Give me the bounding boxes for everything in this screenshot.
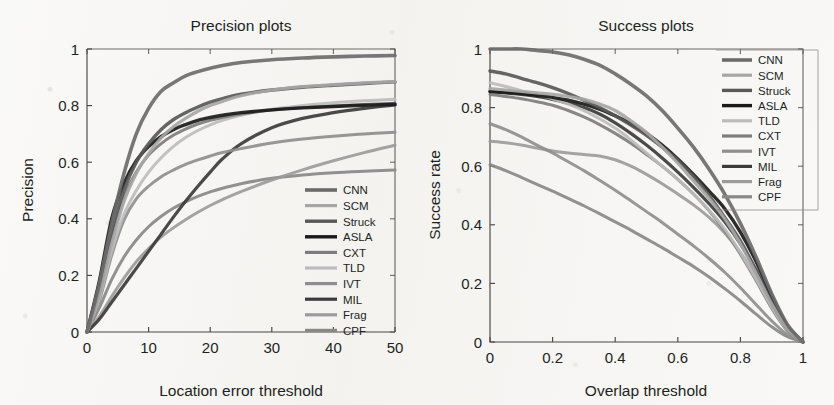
legend-label-ivt: IVT [758,146,776,158]
x-tick-label-success-3: 0.6 [667,349,688,366]
legend-label-struck: Struck [758,85,791,97]
x-tick-label-precision-1: 10 [140,339,157,356]
legend-item-precision-cpf[interactable]: CPF [305,325,366,337]
legend-label-cxt: CXT [758,130,781,142]
legend-item-success-struck[interactable]: Struck [722,85,791,97]
legend-label-cpf: CPF [758,191,781,203]
y-tick-label-precision-0: 0 [71,324,79,341]
y-tick-label-precision-4: 0.8 [58,97,79,114]
legend-item-success-cxt[interactable]: CXT [722,130,781,142]
legend-item-success-cnn[interactable]: CNN [722,54,783,66]
legend-item-precision-tld[interactable]: TLD [305,262,365,274]
legend-label-frag: Frag [758,176,782,188]
y-tick-label-success-5: 1 [474,41,482,58]
legend-label-scm: SCM [343,200,369,212]
legend-label-mil: MIL [343,294,363,306]
y-tick-label-precision-5: 1 [71,41,79,58]
chart-title-precision: Precision plots [191,17,292,34]
curves-success [490,49,803,342]
x-tick-label-success-4: 0.8 [730,349,751,366]
y-axis-label-precision: Precision [19,158,36,222]
legend-label-ivt: IVT [343,278,361,290]
y-tick-label-success-4: 0.8 [461,99,482,116]
legend-label-struck: Struck [343,216,376,228]
y-tick-label-success-2: 0.4 [461,216,482,233]
y-axis-label-success: Success rate [426,150,443,240]
legend-item-precision-ivt[interactable]: IVT [305,278,361,290]
legend-label-cpf: CPF [343,325,366,337]
x-tick-label-success-1: 0.2 [542,349,563,366]
y-tick-label-precision-2: 0.4 [58,210,79,227]
legend-label-scm: SCM [758,70,784,82]
legend-precision: CNNSCMStruckASLACXTTLDIVTMILFragCPF [305,184,376,336]
curve-success-frag [490,141,803,342]
legend-item-success-mil[interactable]: MIL [722,161,778,173]
legend-label-mil: MIL [758,161,778,173]
chart-title-success: Success plots [598,17,694,34]
y-tick-label-success-3: 0.6 [461,158,482,175]
legend-label-cnn: CNN [758,54,783,66]
x-tick-label-precision-3: 30 [263,339,280,356]
legend-item-success-tld[interactable]: TLD [722,115,780,127]
legend-item-precision-mil[interactable]: MIL [305,294,363,306]
x-tick-label-success-0: 0 [486,349,494,366]
x-axis-label-success: Overlap threshold [585,382,707,399]
x-tick-label-precision-5: 50 [387,339,404,356]
curve-success-struck [490,71,803,342]
figure-canvas: Precision plots0102030405000.20.40.60.81… [0,0,834,405]
y-tick-label-success-0: 0 [474,334,482,351]
legend-label-asla: ASLA [343,231,373,243]
legend-label-cnn: CNN [343,184,368,196]
y-tick-label-precision-1: 0.2 [58,267,79,284]
legend-item-success-scm[interactable]: SCM [722,70,784,82]
chart-panel-success: Success plots00.20.40.60.8100.20.40.60.8… [426,17,818,399]
tracking-benchmark-figure: Precision plots0102030405000.20.40.60.81… [0,0,834,405]
legend-item-precision-frag[interactable]: Frag [305,309,367,321]
x-tick-label-precision-2: 20 [202,339,219,356]
legend-item-success-frag[interactable]: Frag [722,176,782,188]
y-tick-label-success-1: 0.2 [461,275,482,292]
legend-label-tld: TLD [758,115,780,127]
legend-item-precision-cnn[interactable]: CNN [305,184,368,196]
x-axis-label-precision: Location error threshold [159,382,323,399]
legend-item-precision-asla[interactable]: ASLA [305,231,373,243]
legend-item-success-asla[interactable]: ASLA [722,100,788,112]
legend-item-precision-cxt[interactable]: CXT [305,247,366,259]
chart-panel-precision: Precision plots0102030405000.20.40.60.81… [19,17,403,399]
legend-label-cxt: CXT [343,247,366,259]
legend-label-frag: Frag [343,309,367,321]
legend-item-success-ivt[interactable]: IVT [722,146,776,158]
x-tick-label-success-5: 1 [799,349,807,366]
curve-success-ivt [490,124,803,342]
legend-item-precision-scm[interactable]: SCM [305,200,369,212]
x-tick-label-precision-0: 0 [83,339,91,356]
legend-label-asla: ASLA [758,100,788,112]
x-tick-label-precision-4: 40 [325,339,342,356]
legend-item-precision-struck[interactable]: Struck [305,216,376,228]
x-tick-label-success-2: 0.4 [605,349,626,366]
y-tick-label-precision-3: 0.6 [58,154,79,171]
legend-label-tld: TLD [343,262,365,274]
